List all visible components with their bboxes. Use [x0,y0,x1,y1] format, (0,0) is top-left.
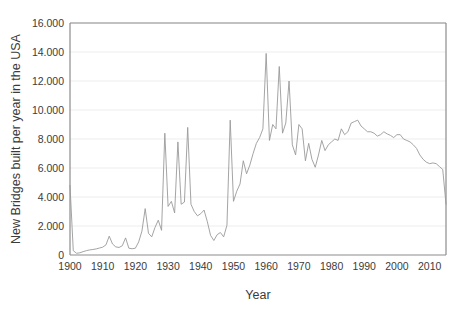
x-tick-label: 1910 [91,260,115,272]
y-tick-label: 0 [58,249,64,261]
y-tick-label: 6.000 [38,162,64,174]
y-tick-label: 14.000 [32,46,64,58]
chart-container: 02.0004.0006.0008.00010.00012.00014.0001… [0,0,464,310]
x-tick-label: 1970 [287,260,311,272]
y-tick-label: 16.000 [32,17,64,29]
x-tick-label: 2010 [418,260,442,272]
y-tick-label: 10.000 [32,104,64,116]
x-tick-label: 1980 [320,260,344,272]
x-tick-label: 1940 [189,260,213,272]
x-tick-label: 1950 [222,260,246,272]
x-tick-label: 2000 [385,260,409,272]
y-tick-label: 12.000 [32,75,64,87]
y-tick-label: 2.000 [38,220,64,232]
line-chart-svg: 02.0004.0006.0008.00010.00012.00014.0001… [0,0,464,310]
x-tick-label: 1900 [58,260,82,272]
y-tick-label: 8.000 [38,133,64,145]
chart-canvas: 02.0004.0006.0008.00010.00012.00014.0001… [0,0,464,310]
x-tick-label: 1930 [156,260,180,272]
x-tick-label: 1920 [124,260,148,272]
y-axis-title: New Bridges built per year in the USA [9,33,23,243]
x-tick-label: 1990 [353,260,377,272]
x-axis-title: Year [245,288,270,302]
x-tick-label: 1960 [254,260,278,272]
y-tick-label: 4.000 [38,191,64,203]
